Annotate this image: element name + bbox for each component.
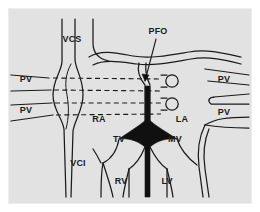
label-ra: RA [92,114,106,124]
vena-cava-vessel [53,19,83,197]
label-rv: RV [115,176,128,186]
atrial-roof [89,51,241,65]
label-lv: LV [161,176,172,186]
label-mv: MV [168,134,182,144]
label-pv-right-upper: PV [218,74,230,84]
label-vcs: VCS [62,34,81,44]
label-pv-left-lower: PV [20,105,32,115]
left-heart-lateral-wall [198,125,209,197]
bubble-circles [161,75,178,110]
label-vci: VCI [70,158,86,168]
mitral-valve [150,139,197,197]
svc-branch [93,19,109,61]
figure-frame: VCS VCI PFO RA LA RV LV TV MV PV PV PV P… [9,9,251,203]
heart-schematic-diagram: VCS VCI PFO RA LA RV LV TV MV PV PV PV P… [9,9,251,203]
rv-outline [93,149,101,163]
tricuspid-valve [101,139,145,197]
label-pfo: PFO [148,26,167,36]
label-pv-left-upper: PV [20,74,32,84]
pfo-leader-line [142,39,156,81]
label-la: LA [176,114,189,124]
figure-container: VCS VCI PFO RA LA RV LV TV MV PV PV PV P… [0,0,260,212]
interatrial-septum [138,63,150,121]
label-pv-right-lower: PV [218,107,230,117]
label-tv: TV [113,134,125,144]
